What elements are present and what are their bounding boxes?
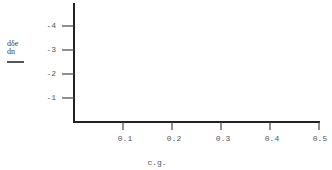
y-tick-label: -2	[38, 69, 56, 78]
x-tick-label: 0.5	[308, 134, 332, 143]
y-axis-label-underline	[7, 61, 24, 63]
y-axis-label-denominator: dn	[7, 48, 24, 56]
y-tick-label: -1	[38, 93, 56, 102]
y-tick-label: -3	[38, 45, 56, 54]
y-tick-label: -4	[38, 21, 56, 30]
x-axis-label: c.g.	[137, 158, 177, 167]
x-tick-label: 0.2	[162, 134, 186, 143]
x-tick-label: 0.3	[211, 134, 235, 143]
x-tick-label: 0.1	[113, 134, 137, 143]
y-axis-label: dδe dn	[7, 40, 24, 63]
x-tick-label: 0.4	[260, 134, 284, 143]
